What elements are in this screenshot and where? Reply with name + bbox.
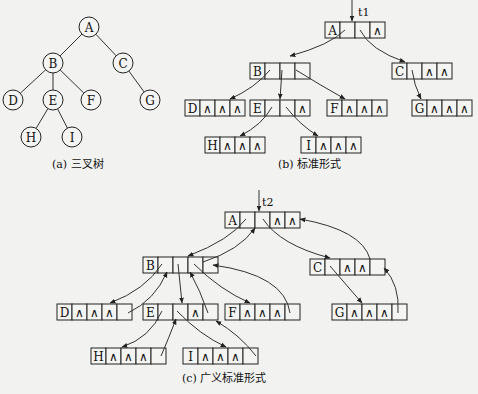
- gen-node-B: B: [143, 257, 218, 273]
- null-pointer: ∧: [360, 102, 369, 116]
- null-pointer: ∧: [445, 102, 454, 116]
- node-label: H: [93, 350, 103, 364]
- null-pointer: ∧: [139, 350, 148, 364]
- node-label: C: [313, 261, 322, 275]
- node-label: I: [306, 139, 311, 153]
- gen-field: [392, 304, 407, 320]
- tree-edge-A-C: [96, 34, 116, 55]
- svg-text:B: B: [49, 57, 58, 71]
- null-pointer: ∧: [425, 65, 434, 79]
- caption-a: (a) 三叉树: [52, 157, 104, 171]
- std-node-D: D∧∧∧: [185, 100, 245, 116]
- svg-text:C: C: [118, 57, 127, 71]
- tree-node-A: A: [79, 17, 99, 37]
- std-field: [407, 63, 422, 79]
- tree-node-G: G: [140, 90, 160, 110]
- null-pointer: ∧: [319, 139, 328, 153]
- svg-text:F: F: [87, 94, 95, 108]
- null-pointer: ∧: [350, 306, 359, 320]
- tree-node-B: B: [43, 53, 63, 73]
- null-pointer: ∧: [258, 306, 267, 320]
- node-label: I: [188, 350, 193, 364]
- std-node-I: I∧∧∧: [301, 137, 361, 153]
- tree-node-D: D: [3, 90, 23, 110]
- generalized-standard-form: A∧∧BC∧∧D∧∧∧E∧F∧∧∧G∧∧∧H∧∧∧I∧∧∧: [57, 190, 407, 364]
- gen-node-E: E∧: [143, 304, 218, 320]
- null-pointer: ∧: [75, 306, 84, 320]
- svg-text:I: I: [70, 131, 75, 145]
- null-pointer: ∧: [380, 306, 389, 320]
- standard-form: A∧BC∧∧D∧∧∧E∧F∧∧∧G∧∧∧H∧∧∧I∧∧∧: [185, 0, 472, 153]
- svg-text:A: A: [84, 21, 94, 35]
- std-B-F: [296, 70, 345, 99]
- gen-field: [240, 212, 255, 228]
- null-pointer: ∧: [203, 102, 212, 116]
- node-label: D: [188, 102, 198, 116]
- gen-node-I: I∧∧∧: [183, 348, 258, 364]
- std-field: [355, 22, 370, 38]
- tree-node-C: C: [113, 53, 133, 73]
- node-label: C: [395, 65, 404, 79]
- node-label: G: [415, 102, 425, 116]
- null-pointer: ∧: [375, 102, 384, 116]
- null-pointer: ∧: [334, 139, 343, 153]
- null-pointer: ∧: [109, 350, 118, 364]
- null-pointer: ∧: [358, 261, 367, 275]
- null-pointer: ∧: [191, 306, 200, 320]
- std-node-E: E∧: [250, 100, 310, 116]
- null-pointer: ∧: [218, 102, 227, 116]
- null-pointer: ∧: [231, 350, 240, 364]
- tree-edge-B-F: [60, 70, 84, 93]
- ternary-tree-diagram: ABCDEFGHI A∧BC∧∧D∧∧∧E∧F∧∧∧G∧∧∧H∧∧∧I∧∧∧ A…: [0, 0, 478, 394]
- gen-field: [158, 304, 173, 320]
- gen-node-D: D∧∧∧: [57, 304, 132, 320]
- gen-node-G: G∧∧∧: [332, 304, 407, 320]
- tree-node-E: E: [43, 90, 63, 110]
- node-label: H: [207, 139, 217, 153]
- node-label: G: [335, 306, 345, 320]
- gen-field: [370, 259, 385, 275]
- gen-field: [325, 259, 340, 275]
- null-pointer: ∧: [243, 306, 252, 320]
- null-pointer: ∧: [373, 24, 382, 38]
- root-pointer-t1: t1: [358, 6, 369, 19]
- three-ary-tree: ABCDEFGHI: [3, 17, 160, 147]
- null-pointer: ∧: [440, 65, 449, 79]
- node-label: F: [330, 102, 338, 116]
- node-label: A: [227, 214, 237, 228]
- std-node-C: C∧∧: [392, 63, 452, 79]
- tree-edge-E-H: [36, 109, 48, 129]
- node-label: F: [228, 306, 236, 320]
- gen-node-A: A∧∧: [225, 212, 300, 228]
- node-label: E: [146, 306, 155, 320]
- tree-node-H: H: [21, 127, 41, 147]
- null-pointer: ∧: [273, 306, 282, 320]
- tree-node-I: I: [62, 127, 82, 147]
- tree-edge-A-B: [60, 34, 82, 56]
- null-pointer: ∧: [105, 306, 114, 320]
- std-node-F: F∧∧∧: [327, 100, 387, 116]
- tree-edge-E-I: [58, 109, 68, 128]
- null-pointer: ∧: [124, 350, 133, 364]
- null-pointer: ∧: [238, 139, 247, 153]
- null-pointer: ∧: [365, 306, 374, 320]
- std-node-B: B: [250, 63, 310, 79]
- std-field: [265, 63, 280, 79]
- gen-field: [158, 257, 173, 273]
- root-pointer-t2: t2: [262, 196, 273, 209]
- node-label: D: [60, 306, 70, 320]
- node-label: A: [327, 24, 337, 38]
- null-pointer: ∧: [216, 350, 225, 364]
- svg-text:D: D: [8, 94, 18, 108]
- null-pointer: ∧: [345, 102, 354, 116]
- gen-H-E: [161, 319, 176, 356]
- std-field: [340, 22, 355, 38]
- node-label: B: [146, 259, 155, 273]
- caption-b: (b) 标准形式: [278, 157, 341, 171]
- svg-text:H: H: [26, 131, 36, 145]
- std-node-G: G∧∧∧: [412, 100, 472, 116]
- null-pointer: ∧: [273, 214, 282, 228]
- std-node-A: A∧: [325, 22, 385, 38]
- null-pointer: ∧: [430, 102, 439, 116]
- tree-node-F: F: [81, 90, 101, 110]
